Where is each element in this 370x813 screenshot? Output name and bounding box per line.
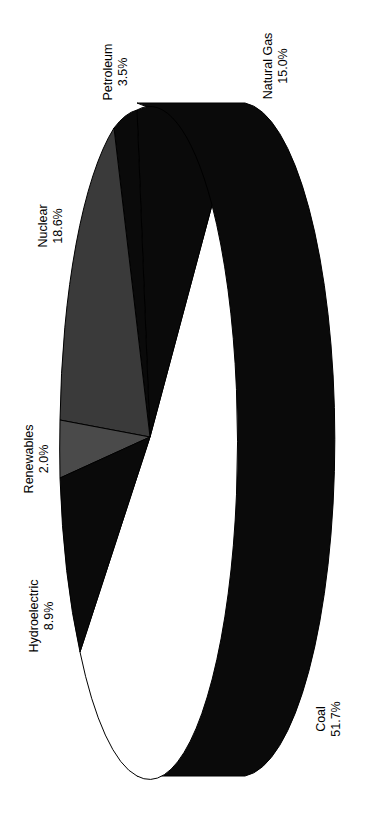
svg-text:Natural Gas: Natural Gas (261, 33, 275, 100)
label-natural-gas: Natural Gas 15.0% (261, 33, 290, 100)
svg-text:Coal: Coal (314, 706, 328, 732)
svg-text:15.0%: 15.0% (276, 48, 290, 83)
svg-text:Renewables: Renewables (22, 425, 36, 494)
pie-top-face (60, 102, 238, 779)
svg-text:18.6%: 18.6% (51, 208, 65, 243)
svg-text:2.0%: 2.0% (37, 445, 51, 474)
label-petroleum: Petroleum 3.5% (101, 44, 130, 101)
label-hydroelectric: Hydroelectric 8.9% (27, 580, 56, 653)
svg-text:Hydroelectric: Hydroelectric (27, 580, 41, 653)
svg-text:3.5%: 3.5% (116, 58, 130, 87)
pie-chart: Petroleum 3.5% Natural Gas 15.0% Nuclear… (0, 0, 370, 813)
svg-text:51.7%: 51.7% (329, 701, 343, 736)
svg-text:Nuclear: Nuclear (36, 204, 50, 247)
label-renewables: Renewables 2.0% (22, 425, 51, 494)
label-nuclear: Nuclear 18.6% (36, 204, 65, 247)
label-coal: Coal 51.7% (314, 701, 343, 736)
svg-text:Petroleum: Petroleum (101, 44, 115, 101)
svg-text:8.9%: 8.9% (42, 602, 56, 631)
